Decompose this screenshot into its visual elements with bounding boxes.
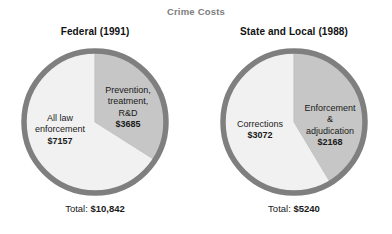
pie-total-state-and-local-label: Total:	[268, 203, 291, 214]
pie-panel-federal: Federal (1991) All law enforcement $7157…	[0, 26, 190, 226]
pie-total-state-and-local-value: $5240	[293, 203, 319, 214]
pie-panel-state-and-local: State and Local (1988) Corrections $3072…	[199, 26, 389, 226]
pie-total-federal: Total: $10,842	[0, 203, 190, 214]
pie-total-state-and-local: Total: $5240	[199, 203, 389, 214]
pie-title-state-and-local: State and Local (1988)	[199, 26, 389, 37]
pie-chart-state-and-local: Corrections $3072 Enforcement & adjudica…	[219, 47, 369, 197]
pie-total-federal-label: Total:	[65, 203, 88, 214]
pie-chart-federal: All law enforcement $7157 Prevention, tr…	[20, 47, 170, 197]
chart-title: Crime Costs	[0, 6, 392, 17]
pie-title-federal: Federal (1991)	[0, 26, 190, 37]
crime-costs-figure: Crime Costs Federal (1991) All law enfor…	[0, 0, 392, 234]
pie-total-federal-value: $10,842	[91, 203, 125, 214]
